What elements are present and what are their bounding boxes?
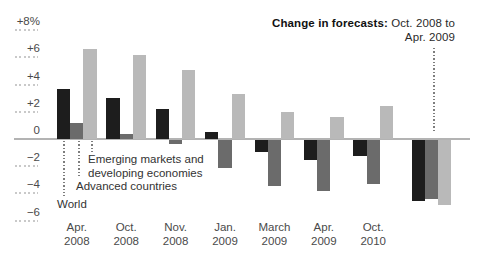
leader-line-world	[63, 141, 65, 196]
forecast-bar-chart: Change in forecasts: Oct. 2008 to Apr. 2…	[0, 0, 480, 262]
bar-advanced-2	[169, 140, 182, 144]
bar-emerging-6	[380, 106, 393, 139]
x-axis-label: Oct. 2010	[342, 221, 404, 248]
bar-advanced-1	[120, 134, 133, 139]
bar-emerging-3	[232, 94, 245, 139]
y-axis-tick-label: +8%	[0, 15, 40, 28]
bar-advanced-5	[317, 140, 330, 192]
ytick-line	[15, 29, 38, 31]
bar-world-4	[255, 140, 268, 152]
bar-world-2	[156, 109, 169, 139]
bar-world-0	[57, 89, 70, 139]
y-axis-tick-label: +2	[0, 97, 40, 110]
ytick-line	[15, 56, 38, 58]
ytick-line	[15, 165, 38, 167]
chart-title-rest: Oct. 2008 to	[388, 17, 455, 29]
bar-advanced-3	[218, 140, 231, 169]
ytick-line	[15, 220, 38, 222]
bar-emerging-0	[83, 49, 96, 139]
bar-emerging-4	[281, 112, 294, 139]
bar-advanced-0	[70, 123, 83, 139]
legend-label-emerging: Emerging markets and developing economie…	[88, 153, 204, 180]
bar-world-3	[205, 132, 218, 139]
bar-advanced-7	[425, 140, 438, 200]
bar-emerging-2	[182, 70, 195, 139]
title-leader-line	[433, 48, 435, 132]
ytick-line	[15, 84, 38, 86]
y-axis-tick-label: −2	[0, 151, 40, 164]
y-axis-tick-label: +4	[0, 70, 40, 83]
chart-title: Change in forecasts: Oct. 2008 to Apr. 2…	[272, 16, 455, 44]
bar-world-7	[412, 140, 425, 201]
leader-line-advanced	[78, 141, 80, 178]
bar-world-1	[106, 98, 119, 139]
bar-emerging-7	[438, 140, 451, 205]
bar-world-5	[304, 140, 317, 160]
bar-advanced-4	[268, 140, 281, 186]
bar-emerging-5	[330, 117, 343, 139]
legend-label-advanced: Advanced countries	[76, 180, 177, 194]
y-axis-tick-label: 0	[0, 124, 40, 137]
legend-label-world: World	[57, 198, 87, 212]
bar-emerging-1	[133, 55, 146, 139]
ytick-line	[15, 192, 38, 194]
y-axis-tick-label: +6	[0, 42, 40, 55]
leader-line-emerging	[91, 141, 93, 152]
y-axis-tick-label: −6	[0, 206, 40, 219]
y-axis-tick-label: −4	[0, 178, 40, 191]
bar-advanced-6	[367, 140, 380, 185]
chart-title-bold: Change in forecasts:	[272, 17, 388, 29]
chart-title-line2: Apr. 2009	[405, 31, 455, 43]
bar-world-6	[353, 140, 366, 156]
ytick-line	[15, 111, 38, 113]
